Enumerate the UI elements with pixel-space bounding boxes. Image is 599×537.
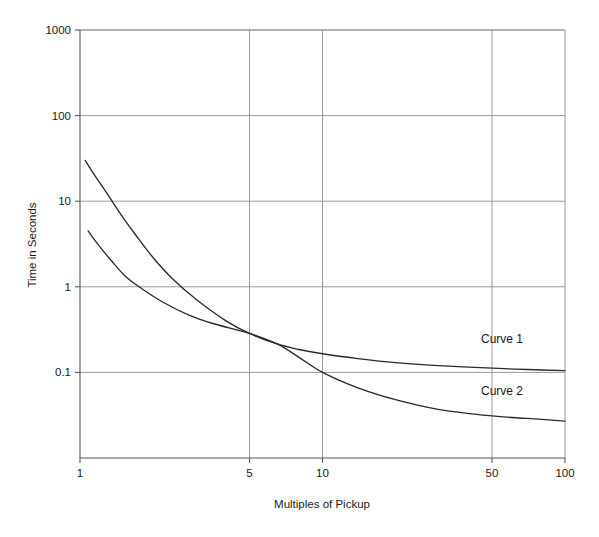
xtick-label-5: 5 — [246, 467, 252, 479]
ytick-label-10: 10 — [58, 195, 71, 207]
ytick-label-100: 100 — [52, 110, 71, 122]
x-axis-title: Multiples of Pickup — [274, 498, 370, 510]
xtick-label-100: 100 — [555, 467, 574, 479]
chart-background — [0, 0, 599, 537]
ytick-label-1: 1 — [65, 281, 71, 293]
time-current-curve-chart: 0.11101001000151050100 Curve 1Curve 2 Mu… — [0, 0, 599, 537]
y-axis-title: Time in Seconds — [26, 202, 38, 287]
ytick-label-1000: 1000 — [45, 24, 71, 36]
xtick-label-50: 50 — [486, 467, 499, 479]
xtick-label-1: 1 — [77, 467, 83, 479]
series-label-1: Curve 1 — [481, 332, 523, 346]
chart-container: 0.11101001000151050100 Curve 1Curve 2 Mu… — [0, 0, 599, 537]
xtick-label-10: 10 — [316, 467, 329, 479]
series-label-2: Curve 2 — [481, 384, 523, 398]
ytick-label-0.1: 0.1 — [55, 366, 71, 378]
